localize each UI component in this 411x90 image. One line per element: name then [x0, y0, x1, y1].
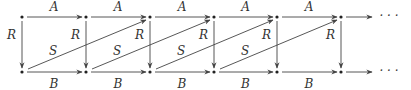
label-s: S — [49, 44, 57, 58]
node-bottom — [148, 70, 151, 73]
label-r: R — [261, 28, 271, 42]
label-r: R — [70, 28, 80, 42]
label-s: S — [241, 44, 249, 58]
edges-layer — [22, 17, 372, 72]
node-bottom — [212, 70, 215, 73]
label-s: S — [113, 44, 121, 58]
node-top — [275, 15, 278, 18]
labels-layer: AAAAABBBBBRRRRRRSSSS· · ·· · · — [6, 0, 399, 90]
node-top — [148, 15, 151, 18]
ellipsis-bottom: · · · — [379, 64, 398, 78]
label-b: B — [304, 77, 314, 90]
label-r: R — [134, 28, 144, 42]
label-a: A — [113, 0, 123, 14]
label-a: A — [240, 0, 250, 14]
node-top — [339, 15, 342, 18]
arrow-s — [92, 20, 210, 69]
label-r: R — [6, 28, 16, 42]
label-b: B — [113, 77, 123, 90]
node-top — [84, 15, 87, 18]
label-s: S — [177, 44, 185, 58]
node-top — [212, 15, 215, 18]
node-bottom — [339, 70, 342, 73]
label-b: B — [49, 77, 59, 90]
label-r: R — [198, 28, 208, 42]
commutative-diagram: AAAAABBBBBRRRRRRSSSS· · ·· · · — [0, 0, 411, 90]
node-bottom — [84, 70, 87, 73]
arrow-s — [156, 20, 273, 69]
ellipsis-top: · · · — [379, 9, 398, 23]
label-b: B — [240, 77, 250, 90]
label-a: A — [177, 0, 187, 14]
node-bottom — [20, 70, 23, 73]
label-r: R — [325, 28, 335, 42]
node-top — [20, 15, 23, 18]
node-bottom — [275, 70, 278, 73]
arrow-s — [28, 20, 146, 69]
label-a: A — [49, 0, 59, 14]
label-a: A — [304, 0, 314, 14]
arrow-s — [220, 20, 337, 69]
label-b: B — [177, 77, 187, 90]
diagram-canvas: AAAAABBBBBRRRRRRSSSS· · ·· · · — [0, 0, 411, 90]
